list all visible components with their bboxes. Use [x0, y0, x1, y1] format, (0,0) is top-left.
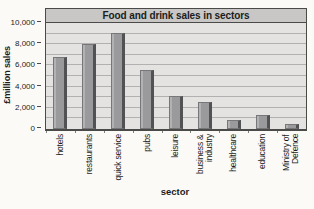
x-axis-label: restaurants: [85, 134, 94, 174]
y-tick-label: 8,000: [15, 39, 35, 48]
bar-slot: [162, 23, 191, 129]
x-label-slot: leisure: [162, 134, 191, 188]
x-axis-title: sector: [45, 186, 305, 197]
x-label-slot: restaurants: [75, 134, 104, 188]
x-label-slot: Ministry of Defence: [277, 134, 306, 188]
bar-slot: [75, 23, 104, 129]
y-tick-mark: [37, 127, 41, 128]
bar-education: [256, 115, 270, 129]
chart-title-band: Food and drink sales in sectors: [46, 9, 306, 23]
bar-business-industry: [198, 102, 212, 129]
bar-slot: [190, 23, 219, 129]
y-tick-mark: [37, 42, 41, 43]
x-axis-label: healthcare: [229, 134, 238, 172]
y-tick-label: 4,000: [15, 81, 35, 90]
y-tick-mark: [37, 21, 41, 22]
plot-area: Food and drink sales in sectors: [45, 8, 307, 131]
bar-slot: [219, 23, 248, 129]
bar-ministry-of-defence: [285, 124, 299, 129]
y-tick-mark: [37, 63, 41, 64]
x-axis-label: education: [258, 134, 267, 169]
x-axis-ticks: [46, 130, 306, 133]
bar-leisure: [169, 96, 183, 129]
bar-healthcare: [227, 120, 241, 129]
x-axis-label: quick service: [114, 134, 123, 181]
bar-slot: [248, 23, 277, 129]
x-axis-label: hotels: [56, 134, 65, 155]
y-tick-label: 6,000: [15, 60, 35, 69]
chart-title: Food and drink sales in sectors: [103, 10, 250, 21]
x-label-slot: pubs: [133, 134, 162, 188]
x-axis-labels: hotelsrestaurantsquick servicepubsleisur…: [46, 134, 306, 188]
x-label-slot: healthcare: [219, 134, 248, 188]
plot-region: [46, 23, 306, 129]
y-tick-mark: [37, 106, 41, 107]
x-label-slot: hotels: [46, 134, 75, 188]
bar-slot: [277, 23, 306, 129]
x-axis-label: business & industry: [196, 134, 214, 188]
y-tick-mark: [37, 85, 41, 86]
bar-slot: [104, 23, 133, 129]
x-label-slot: education: [248, 134, 277, 188]
bar-hotels: [53, 57, 67, 129]
bar-slot: [46, 23, 75, 129]
x-axis-label: Ministry of Defence: [282, 134, 300, 188]
x-axis-label: pubs: [143, 134, 152, 152]
bar-quick-service: [111, 33, 125, 129]
bar-pubs: [140, 70, 154, 129]
bar-restaurants: [82, 44, 96, 129]
x-label-slot: quick service: [104, 134, 133, 188]
bar-slot: [133, 23, 162, 129]
x-axis-label: leisure: [171, 134, 180, 158]
y-tick-label: 0: [31, 124, 35, 133]
y-axis-ticks: 02,0004,0006,0008,00010,000: [0, 22, 43, 128]
x-label-slot: business & industry: [190, 134, 219, 188]
y-tick-label: 10,000: [11, 18, 35, 27]
y-tick-label: 2,000: [15, 102, 35, 111]
bars: [46, 23, 306, 129]
